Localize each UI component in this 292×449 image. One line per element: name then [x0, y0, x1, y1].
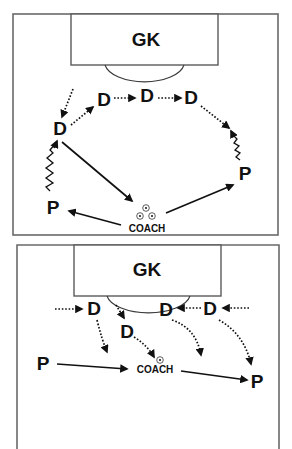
pass-arrow	[57, 364, 127, 369]
penalty-arc	[105, 65, 184, 82]
dribble-path	[233, 135, 240, 160]
dribble-arrow	[231, 131, 234, 137]
run-arrow	[71, 107, 93, 125]
defender-label: D	[140, 85, 154, 106]
pass-arrow	[181, 371, 247, 380]
run-arrow	[62, 89, 73, 117]
defender-label: D	[53, 118, 67, 139]
player-label: P	[251, 371, 264, 392]
run-arrow	[201, 106, 229, 128]
dribble-path	[46, 144, 55, 191]
defender-label: D	[120, 321, 134, 342]
pass-arrow	[69, 211, 121, 225]
goalkeeper-label: GK	[132, 29, 161, 50]
defender-label: D	[203, 298, 217, 319]
run-arrow	[219, 320, 251, 364]
top-drill-diagram: GK D D D D P P COACH	[13, 14, 278, 235]
player-label: P	[37, 353, 50, 374]
defender-label: D	[97, 89, 111, 110]
defender-label: D	[184, 87, 198, 108]
run-arrow	[97, 320, 107, 352]
defender-label: D	[87, 298, 101, 319]
player-label: P	[239, 163, 252, 184]
defender-label: D	[159, 299, 173, 320]
coach-label: COACH	[137, 364, 174, 375]
player-label: P	[47, 197, 60, 218]
ball-cluster	[137, 205, 156, 220]
goalkeeper-label: GK	[133, 259, 162, 280]
coach-label: COACH	[129, 223, 166, 234]
penalty-arc	[107, 296, 190, 313]
bottom-drill-diagram: GK D D D D P P COACH	[17, 245, 279, 449]
pass-arrow	[62, 142, 132, 201]
run-arrow	[134, 337, 154, 357]
run-arrow	[116, 305, 124, 318]
run-arrow	[172, 320, 201, 355]
pass-arrow	[166, 185, 233, 213]
drills-diagram: GK D D D D P P COACH	[0, 0, 292, 449]
